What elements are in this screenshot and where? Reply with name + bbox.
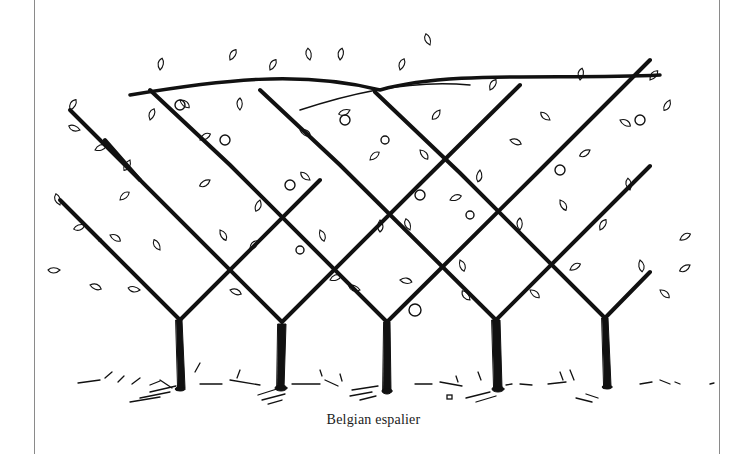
trunks xyxy=(175,318,612,394)
foliage xyxy=(48,33,692,302)
lattice-branches xyxy=(60,60,660,322)
left-margin-rule xyxy=(34,0,35,454)
ground-strokes xyxy=(78,363,714,404)
book-page: Belgian espalier xyxy=(0,0,747,454)
belgian-espalier-illustration xyxy=(36,20,718,405)
figure-caption: Belgian espalier xyxy=(0,412,747,428)
right-margin-rule xyxy=(719,0,720,454)
